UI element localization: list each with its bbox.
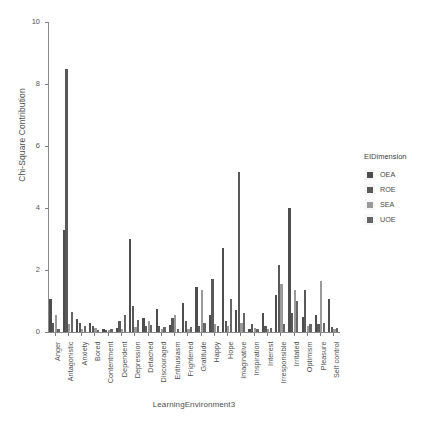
bar	[177, 329, 179, 332]
bar	[203, 323, 205, 332]
x-tick-mark	[267, 333, 268, 336]
x-tick-mark	[174, 333, 175, 336]
bar	[256, 329, 258, 332]
bar	[238, 172, 240, 332]
x-tick-mark	[55, 333, 56, 336]
legend-item-label: ROE	[380, 185, 396, 194]
chart-container: Chi-Square Contribution 0246810 AngerAnt…	[0, 0, 446, 429]
legend-swatch-icon	[367, 202, 373, 208]
bar	[270, 328, 272, 332]
bar	[97, 330, 99, 332]
x-tick-label: Hope	[225, 342, 234, 429]
legend-items: OEAROESEAUOE	[364, 168, 442, 226]
x-tick-mark	[214, 333, 215, 336]
x-tick-mark	[320, 333, 321, 336]
legend-item-label: OEA	[380, 170, 395, 179]
legend-title: EIDimension	[364, 152, 442, 161]
bar	[71, 312, 73, 332]
y-tick-label: 10	[18, 18, 40, 26]
bar	[336, 328, 338, 332]
bar	[323, 323, 325, 332]
x-tick-mark	[161, 333, 162, 336]
legend-swatch-box	[364, 169, 375, 180]
x-tick-mark	[294, 333, 295, 336]
x-tick-mark	[201, 333, 202, 336]
x-tick-mark	[240, 333, 241, 336]
legend-swatch-box	[364, 214, 375, 225]
x-tick-mark	[307, 333, 308, 336]
x-tick-label: Inspiration	[252, 342, 261, 429]
x-tick-label: Self control	[331, 342, 340, 429]
x-tick-label: Frightened	[185, 342, 194, 429]
x-tick-label: Imaginative	[238, 342, 247, 429]
x-tick-label: Happy	[212, 342, 221, 429]
legend-item-label: SEA	[380, 200, 394, 209]
x-tick-mark	[333, 333, 334, 336]
bar	[230, 299, 232, 332]
plot-area	[48, 22, 340, 332]
bar	[150, 325, 152, 332]
legend-item-label: UOE	[380, 215, 396, 224]
x-tick-mark	[134, 333, 135, 336]
x-tick-mark	[187, 333, 188, 336]
legend-item-uoe[interactable]: UOE	[364, 213, 442, 226]
x-tick-label: Depression	[132, 342, 141, 429]
bar	[243, 313, 245, 332]
bar	[137, 320, 139, 332]
bar	[222, 248, 224, 332]
x-tick-mark	[280, 333, 281, 336]
x-tick-mark	[148, 333, 149, 336]
x-tick-label: Discouraged	[159, 342, 168, 429]
y-tick-label: 2	[18, 266, 40, 274]
x-tick-mark	[227, 333, 228, 336]
bar	[65, 69, 67, 333]
legend-item-roe[interactable]: ROE	[364, 183, 442, 196]
x-tick-label: Anxiety	[79, 342, 88, 429]
x-tick-label: Irritated	[292, 342, 301, 429]
y-tick-label: 4	[18, 204, 40, 212]
x-tick-label: Pleasure	[318, 342, 327, 429]
chart-legend: EIDimension OEAROESEAUOE	[364, 152, 442, 228]
bar	[124, 315, 126, 332]
bar	[309, 324, 311, 332]
bar	[57, 329, 59, 332]
legend-swatch-box	[364, 184, 375, 195]
x-tick-label: Gratitude	[199, 342, 208, 429]
legend-swatch-icon	[367, 217, 373, 223]
x-tick-label: Contentment	[106, 342, 115, 429]
legend-item-oea[interactable]: OEA	[364, 168, 442, 181]
x-tick-label: Antagonistic	[66, 342, 75, 429]
x-tick-label: Optimism	[305, 342, 314, 429]
x-tick-label: Enthusiasm	[172, 342, 181, 429]
bar	[296, 301, 298, 332]
bar	[84, 326, 86, 332]
x-tick-mark	[94, 333, 95, 336]
x-tick-label: Irresponsible	[278, 342, 287, 429]
x-axis-title: LearningEnvironment3	[48, 400, 340, 409]
y-tick-label: 8	[18, 80, 40, 88]
legend-swatch-icon	[367, 187, 373, 193]
x-tick-label: Interest	[265, 342, 274, 429]
x-tick-label: Bored	[92, 342, 101, 429]
x-tick-mark	[81, 333, 82, 336]
bar	[163, 327, 165, 332]
y-tick-label: 0	[18, 328, 40, 336]
bar	[283, 324, 285, 332]
legend-swatch-icon	[367, 172, 373, 178]
x-tick-label: Anger	[53, 342, 62, 429]
x-tick-label: Detached	[146, 342, 155, 429]
bar	[110, 329, 112, 332]
x-tick-mark	[108, 333, 109, 336]
legend-item-sea[interactable]: SEA	[364, 198, 442, 211]
bar	[190, 327, 192, 332]
legend-swatch-box	[364, 199, 375, 210]
y-tick-label: 6	[18, 142, 40, 150]
x-tick-mark	[121, 333, 122, 336]
bar	[217, 326, 219, 332]
x-tick-mark	[254, 333, 255, 336]
x-axis-line	[48, 332, 340, 333]
x-tick-label: Dependent	[119, 342, 128, 429]
x-tick-mark	[68, 333, 69, 336]
